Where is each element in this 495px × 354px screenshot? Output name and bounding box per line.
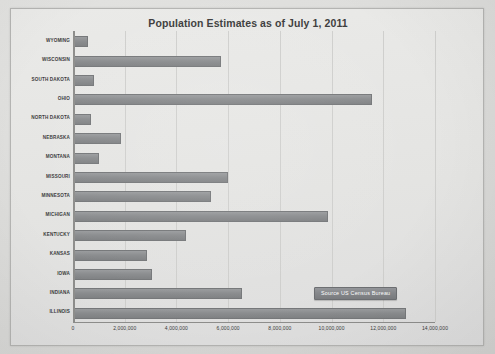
y-tick-label-minnesota: MINNESOTA [41, 193, 70, 198]
gridline-10000000 [332, 31, 333, 322]
y-tick-label-iowa: IOWA [57, 271, 70, 276]
bar-montana [73, 153, 99, 164]
bar-michigan [73, 211, 328, 222]
source-annotation: Source US Census Bureau [314, 287, 397, 300]
y-tick-label-kentucky: KENTUCKY [43, 232, 70, 237]
y-tick-label-nebraska: NEBRASKA [43, 135, 70, 140]
y-tick-label-indiana: INDIANA [50, 290, 70, 295]
plot-area [73, 31, 435, 322]
y-tick-label-wyoming: WYOMING [46, 38, 70, 43]
y-tick-label-ohio: OHIO [58, 96, 70, 101]
bar-missouri [73, 172, 228, 183]
y-axis-tick-labels: WYOMINGWISCONSINSOUTH DAKOTAOHIONORTH DA… [15, 31, 70, 322]
bar-wisconsin [73, 56, 221, 67]
y-tick-label-kansas: KANSAS [50, 251, 70, 256]
x-tick-label-4000000: 4,000,000 [165, 325, 188, 331]
bar-south-dakota [73, 75, 94, 86]
x-tick-label-6000000: 6,000,000 [217, 325, 240, 331]
bar-illinois [73, 308, 406, 319]
y-tick-label-illinois: ILLINOIS [49, 309, 70, 314]
bar-ohio [73, 94, 372, 105]
y-tick-label-south-dakota: SOUTH DAKOTA [32, 77, 70, 82]
bar-iowa [73, 269, 152, 280]
chart-title: Population Estimates as of July 1, 2011 [11, 17, 485, 29]
x-tick-label-2000000: 2,000,000 [113, 325, 136, 331]
gridline-8000000 [280, 31, 281, 322]
x-tick-label-8000000: 8,000,000 [268, 325, 291, 331]
bar-kansas [73, 250, 147, 261]
y-tick-label-montana: MONTANA [46, 154, 70, 159]
bar-kentucky [73, 230, 186, 241]
gridline-12000000 [383, 31, 384, 322]
x-axis-tick-labels: 02,000,0004,000,0006,000,0008,000,00010,… [73, 325, 435, 339]
y-tick-label-wisconsin: WISCONSIN [42, 57, 70, 62]
x-axis-line [73, 322, 435, 323]
bar-indiana [73, 288, 242, 299]
x-tick-label-14000000: 14,000,000 [422, 325, 448, 331]
x-tick-label-0: 0 [72, 325, 75, 331]
bar-minnesota [73, 191, 211, 202]
y-axis-line [73, 31, 75, 322]
screenshot-canvas: Population Estimates as of July 1, 2011 … [0, 0, 495, 354]
gridline-14000000 [435, 31, 436, 322]
bar-nebraska [73, 133, 121, 144]
bar-wyoming [73, 36, 88, 47]
y-tick-label-north-dakota: NORTH DAKOTA [31, 115, 70, 120]
x-tick-label-10000000: 10,000,000 [319, 325, 345, 331]
bar-north-dakota [73, 114, 91, 125]
chart-frame: Population Estimates as of July 1, 2011 … [10, 8, 484, 346]
y-tick-label-michigan: MICHIGAN [46, 212, 70, 217]
x-tick-label-12000000: 12,000,000 [370, 325, 396, 331]
y-tick-label-missouri: MISSOURI [46, 174, 70, 179]
